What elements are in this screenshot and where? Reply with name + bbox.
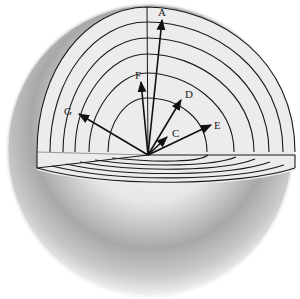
label-g: G — [64, 105, 72, 117]
label-a: A — [158, 6, 166, 18]
sphere-vector-diagram: A F D G E C — [0, 0, 300, 299]
label-d: D — [185, 88, 193, 100]
label-e: E — [214, 119, 221, 131]
label-f: F — [135, 69, 141, 81]
label-c: C — [172, 127, 179, 139]
diagram-canvas: A F D G E C — [0, 0, 300, 299]
